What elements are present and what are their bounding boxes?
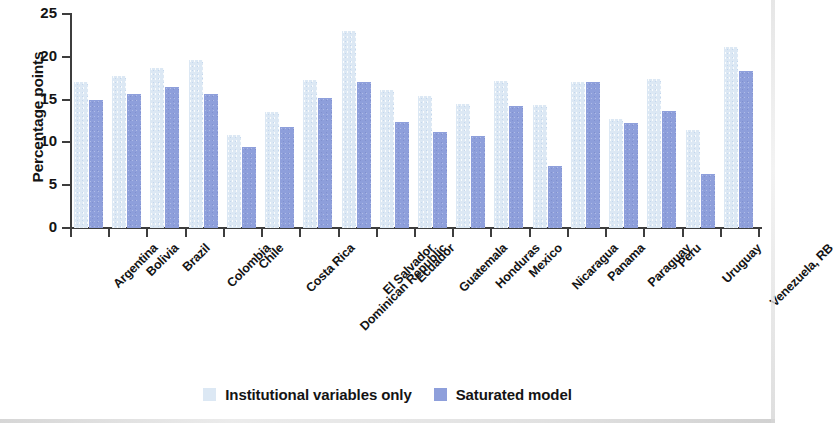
y-axis-tick-label: 0 xyxy=(49,218,57,235)
bar-group xyxy=(150,14,182,228)
bar xyxy=(112,76,126,228)
bar xyxy=(265,112,279,228)
bar xyxy=(242,147,256,228)
x-axis-tick xyxy=(758,229,760,237)
bar-group xyxy=(380,14,412,228)
x-axis-tick xyxy=(185,229,187,237)
x-axis-tick xyxy=(70,229,72,237)
bar-group xyxy=(227,14,259,228)
x-axis-tick xyxy=(146,229,148,237)
x-axis-category-label: Brazil xyxy=(180,241,213,274)
y-axis-tick-label: 20 xyxy=(40,47,57,64)
x-axis-tick xyxy=(452,229,454,237)
x-axis-tick xyxy=(682,229,684,237)
bar xyxy=(204,94,218,228)
bar-group xyxy=(533,14,565,228)
bar xyxy=(509,106,523,228)
legend-swatch-icon-saturated xyxy=(434,388,447,401)
legend-item-institutional: Institutional variables only xyxy=(203,386,411,403)
x-axis-tick xyxy=(108,229,110,237)
legend-label-institutional: Institutional variables only xyxy=(225,386,411,403)
x-axis-category-label: Venezuela, RB xyxy=(768,241,836,309)
bar-group xyxy=(609,14,641,228)
bar xyxy=(395,122,409,228)
y-axis-tick-label: 15 xyxy=(40,90,57,107)
x-axis-tick xyxy=(299,229,301,237)
plot-area xyxy=(70,14,758,228)
bar-group xyxy=(647,14,679,228)
bar xyxy=(533,105,547,228)
bar xyxy=(662,111,676,228)
bar xyxy=(127,94,141,228)
x-axis-tick xyxy=(223,229,225,237)
scan-edge-right xyxy=(771,0,775,423)
bar xyxy=(74,82,88,228)
x-axis-tick xyxy=(529,229,531,237)
bar xyxy=(609,119,623,228)
bar xyxy=(342,31,356,228)
x-axis-tick xyxy=(605,229,607,237)
y-axis-tick-label: 5 xyxy=(49,175,57,192)
bar-group xyxy=(265,14,297,228)
bar-group xyxy=(74,14,106,228)
bar xyxy=(739,71,753,229)
bar-group xyxy=(342,14,374,228)
bar-group xyxy=(456,14,488,228)
x-axis-tick xyxy=(376,229,378,237)
bar xyxy=(647,79,661,228)
bar xyxy=(318,98,332,228)
bar xyxy=(189,60,203,228)
bar xyxy=(165,87,179,228)
bar xyxy=(571,82,585,228)
bar xyxy=(89,100,103,228)
bar xyxy=(624,123,638,228)
bar xyxy=(150,68,164,228)
bar-group xyxy=(686,14,718,228)
chart-legend: Institutional variables only Saturated m… xyxy=(0,386,775,403)
bar-group xyxy=(189,14,221,228)
x-axis-tick xyxy=(414,229,416,237)
bar-group xyxy=(303,14,335,228)
bar-group xyxy=(112,14,144,228)
bar-group xyxy=(418,14,450,228)
bar xyxy=(380,90,394,228)
bar xyxy=(456,104,470,228)
bar-group xyxy=(571,14,603,228)
bar xyxy=(280,127,294,228)
x-axis-tick xyxy=(261,229,263,237)
bar xyxy=(418,96,432,228)
legend-label-saturated: Saturated model xyxy=(456,386,572,403)
scan-edge-bottom xyxy=(0,419,775,423)
bar xyxy=(701,174,715,228)
legend-item-saturated: Saturated model xyxy=(434,386,572,403)
legend-swatch-icon-institutional xyxy=(203,388,216,401)
bar xyxy=(494,81,508,228)
x-axis-tick xyxy=(567,229,569,237)
bar xyxy=(357,82,371,228)
x-axis-category-label: Uruguay xyxy=(720,241,765,286)
x-axis-tick xyxy=(720,229,722,237)
x-axis-category-label: Costa Rica xyxy=(303,241,357,295)
bar xyxy=(433,132,447,228)
y-axis-title: Percentage points xyxy=(29,7,47,227)
x-axis-tick xyxy=(490,229,492,237)
x-axis-tick xyxy=(338,229,340,237)
bar xyxy=(586,82,600,228)
y-axis-tick-label: 25 xyxy=(40,4,57,21)
bar xyxy=(227,135,241,228)
bar xyxy=(548,166,562,228)
bar xyxy=(303,80,317,228)
bar xyxy=(686,130,700,228)
bar xyxy=(724,47,738,228)
bar xyxy=(471,136,485,228)
x-axis-tick xyxy=(643,229,645,237)
bar-group xyxy=(724,14,756,228)
y-axis-tick-label: 10 xyxy=(40,132,57,149)
bar-group xyxy=(494,14,526,228)
